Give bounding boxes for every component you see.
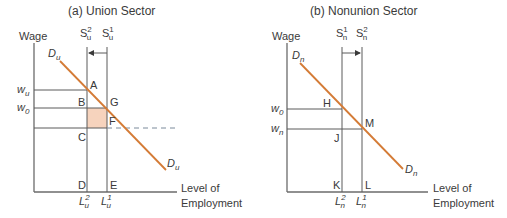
labor-market-diagram: (a) Union Sector Wage S2u S1u Du Du wu w… xyxy=(0,0,507,218)
point-h: H xyxy=(323,97,331,109)
point-m: M xyxy=(365,117,374,129)
point-g: G xyxy=(110,96,119,108)
y-axis-label-union: Wage xyxy=(19,30,47,42)
wage-label-wu: wu xyxy=(17,83,30,98)
point-d: D xyxy=(78,179,86,191)
demand-curve-dn xyxy=(300,63,403,169)
panel-title-nonunion: (b) Nonunion Sector xyxy=(310,4,417,18)
demand-label-du-bottom: Du xyxy=(167,157,180,172)
point-l: L xyxy=(365,179,371,191)
shaded-region-bgfc xyxy=(87,108,107,128)
point-f: F xyxy=(109,115,116,127)
employment-label-lu1: L1u xyxy=(101,193,112,210)
supply-label-sn2: S2n xyxy=(356,25,368,42)
x-axis-label-nonunion-line1: Level of xyxy=(433,182,472,194)
point-j: J xyxy=(334,132,340,144)
point-e: E xyxy=(110,179,117,191)
wage-label-wn: wn xyxy=(271,122,284,137)
employment-label-ln2: L2n xyxy=(335,193,346,210)
point-c: C xyxy=(78,131,86,143)
point-a: A xyxy=(90,79,98,91)
panel-title-union: (a) Union Sector xyxy=(68,4,155,18)
x-axis-label-union-line1: Level of xyxy=(181,182,220,194)
panel-nonunion: (b) Nonunion Sector Wage S1n S2n Dn Dn w… xyxy=(271,4,494,210)
supply-label-sn1: S1n xyxy=(336,25,348,42)
employment-label-lu2: L2u xyxy=(79,193,90,210)
point-k: K xyxy=(333,179,341,191)
supply-label-su1: S1u xyxy=(102,25,114,42)
demand-label-dn-bottom: Dn xyxy=(405,163,418,178)
wage-label-w0-union: w0 xyxy=(17,101,30,116)
demand-label-dn-top: Dn xyxy=(292,49,305,64)
point-b: B xyxy=(78,96,85,108)
x-axis-label-nonunion-line2: Employment xyxy=(433,197,494,209)
panel-union: (a) Union Sector Wage S2u S1u Du Du wu w… xyxy=(17,4,242,210)
supply-label-su2: S2u xyxy=(80,25,92,42)
demand-label-du-top: Du xyxy=(48,47,61,62)
wage-label-w0-nonunion: w0 xyxy=(271,102,284,117)
y-axis-label-nonunion: Wage xyxy=(272,30,300,42)
employment-label-ln1: L1n xyxy=(356,193,367,210)
x-axis-label-union-line2: Employment xyxy=(181,197,242,209)
